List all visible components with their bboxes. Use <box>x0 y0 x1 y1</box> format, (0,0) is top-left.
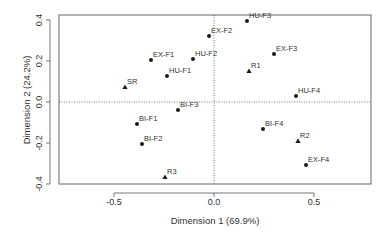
point-label: R2 <box>300 131 310 140</box>
point-label: EX-F1 <box>153 50 174 59</box>
data-point-bi-f2: BI-F2 <box>140 134 162 146</box>
data-point-r3: R3 <box>162 167 176 179</box>
data-point-bi-f4: BI-F4 <box>261 119 283 131</box>
x-tick-label: 0.5 <box>308 197 321 207</box>
point-label: BI-F3 <box>180 100 198 109</box>
point-label: SR <box>127 77 138 86</box>
y-axis: -0.4-0.20.00.20.4 <box>34 14 50 192</box>
y-tick-label: 0.0 <box>34 96 44 109</box>
point-label: HU-F3 <box>249 11 271 20</box>
y-tick-label: -0.4 <box>34 176 44 192</box>
data-point-ex-f3: EX-F3 <box>272 44 297 56</box>
data-point-bi-f1: BI-F1 <box>135 114 157 126</box>
data-point-ex-f4: EX-F4 <box>304 155 329 167</box>
point-label: R1 <box>251 61 261 70</box>
x-tick-label: 0.0 <box>208 197 221 207</box>
point-label: HU-F4 <box>298 86 320 95</box>
data-point-sr: SR <box>122 77 138 89</box>
x-tick-label: -0.5 <box>106 197 122 207</box>
point-label: R3 <box>167 167 177 176</box>
point-label: HU-F1 <box>169 66 191 75</box>
data-point-hu-f2: HU-F2 <box>191 49 217 61</box>
data-point-ex-f1: EX-F1 <box>149 50 174 62</box>
y-tick-label: -0.2 <box>34 135 44 151</box>
point-label: EX-F2 <box>211 26 232 35</box>
point-label: BI-F1 <box>139 114 157 123</box>
x-axis-title: Dimension 1 (69.9%) <box>171 215 260 226</box>
x-axis: -0.50.00.5 <box>106 193 320 207</box>
data-point-ex-f2: EX-F2 <box>207 26 232 38</box>
data-points: EX-F1EX-F2EX-F3EX-F4HU-F1HU-F2HU-F3HU-F4… <box>122 11 329 179</box>
point-label: BI-F4 <box>265 119 283 128</box>
y-axis-title: Dimension 2 (24.2%) <box>21 56 32 145</box>
data-point-hu-f4: HU-F4 <box>294 86 320 98</box>
point-label: EX-F4 <box>308 155 329 164</box>
point-label: EX-F3 <box>276 44 297 53</box>
data-point-r2: R2 <box>295 131 309 143</box>
point-label: HU-F2 <box>195 49 217 58</box>
data-point-hu-f1: HU-F1 <box>165 66 191 78</box>
data-point-hu-f3: HU-F3 <box>245 11 271 23</box>
y-tick-label: 0.4 <box>34 14 44 27</box>
data-point-r1: R1 <box>246 61 260 73</box>
data-point-bi-f3: BI-F3 <box>176 100 198 112</box>
point-label: BI-F2 <box>144 134 162 143</box>
y-tick-label: 0.2 <box>34 55 44 68</box>
scatter-chart: -0.4-0.20.00.20.4 -0.50.00.5 EX-F1EX-F2E… <box>0 0 391 236</box>
